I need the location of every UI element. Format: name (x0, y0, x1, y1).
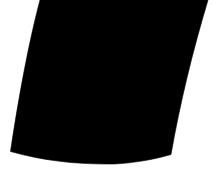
screenshot-root: Solid black quadrilateral region on a wh… (0, 0, 217, 184)
shape-canvas (0, 0, 217, 184)
